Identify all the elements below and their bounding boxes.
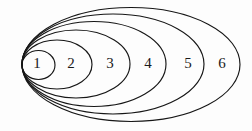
region-label-5: 5 (184, 55, 192, 71)
nested-ellipses-canvas: 123456 (0, 0, 252, 131)
region-label-1: 1 (33, 55, 41, 71)
nested-ellipses-figure: 123456 (0, 0, 252, 131)
region-label-4: 4 (144, 55, 152, 71)
region-label-2: 2 (67, 55, 75, 71)
region-label-6: 6 (218, 55, 226, 71)
region-label-3: 3 (106, 55, 114, 71)
